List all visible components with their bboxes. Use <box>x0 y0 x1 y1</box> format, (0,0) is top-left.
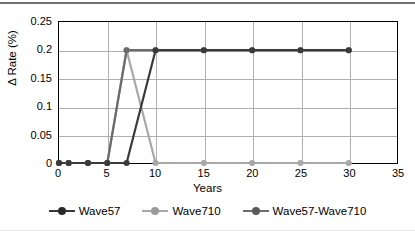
legend-label: Wave57-Wave710 <box>273 205 367 217</box>
chart-legend: Wave57 Wave710 Wave57-Wave710 <box>0 205 415 217</box>
chart-figure: 0.25 0.2 0.15 0.1 0.05 0 Δ Rate (%) 0 5 … <box>0 0 415 231</box>
series-plot-svg <box>59 22 397 163</box>
legend-dot <box>151 207 159 215</box>
x-tick-label: 35 <box>383 167 413 179</box>
legend-marker-icon <box>142 206 168 217</box>
data-point-marker <box>104 160 110 166</box>
data-point-marker <box>124 47 130 53</box>
data-point-marker <box>201 160 207 166</box>
x-tick-label: 30 <box>334 167 364 179</box>
data-point-marker <box>124 160 130 166</box>
legend-label: Wave710 <box>172 205 220 217</box>
legend-marker-icon <box>49 206 75 217</box>
x-tick-label: 10 <box>140 167 170 179</box>
x-axis-title: Years <box>0 182 415 194</box>
legend-dot <box>58 207 66 215</box>
legend-item-wave57[interactable]: Wave57 <box>49 205 121 217</box>
y-axis-title: Δ Rate (%) <box>6 8 18 108</box>
data-point-marker <box>201 47 207 53</box>
data-point-marker <box>346 160 352 166</box>
x-tick-label: 20 <box>237 167 267 179</box>
x-tick-label: 0 <box>43 167 73 179</box>
top-border-rule <box>0 2 415 4</box>
legend-dot <box>252 207 260 215</box>
data-point-marker <box>85 160 91 166</box>
legend-label: Wave57 <box>79 205 121 217</box>
y-tick-label: 0.25 <box>31 16 52 27</box>
x-tick-label: 25 <box>286 167 316 179</box>
x-tick-label: 5 <box>92 167 122 179</box>
series-line <box>59 50 349 163</box>
legend-item-wave710[interactable]: Wave710 <box>142 205 220 217</box>
series-line <box>59 50 349 163</box>
y-tick-label: 0.15 <box>31 73 52 84</box>
data-point-marker <box>249 160 255 166</box>
y-tick-label: 0.2 <box>37 44 52 55</box>
data-point-marker <box>346 47 352 53</box>
x-tick-label: 15 <box>189 167 219 179</box>
legend-item-wave57-wave710[interactable]: Wave57-Wave710 <box>243 205 367 217</box>
bottom-border-rule <box>0 230 415 231</box>
plot-area <box>58 21 398 164</box>
y-tick-label: 0.05 <box>31 130 52 141</box>
data-point-marker <box>249 47 255 53</box>
data-point-marker <box>297 160 303 166</box>
data-point-marker <box>66 160 72 166</box>
legend-marker-icon <box>243 206 269 217</box>
data-point-marker <box>152 160 158 166</box>
data-point-marker <box>297 47 303 53</box>
data-point-marker <box>152 47 158 53</box>
series-line <box>59 50 349 163</box>
y-tick-label: 0.1 <box>37 101 52 112</box>
data-point-marker <box>56 160 62 166</box>
